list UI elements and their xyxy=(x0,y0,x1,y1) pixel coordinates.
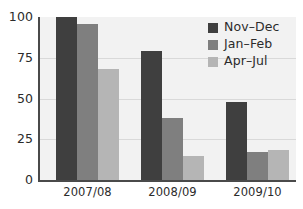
bar-jan-feb-2008-09 xyxy=(162,118,183,180)
bar-chart: 100 75 50 25 0 2007/08 2008/09 2009/10 xyxy=(0,0,303,209)
legend-label-apr-jul: Apr–Jul xyxy=(224,55,268,68)
x-tick-label-2007-08: 2007/08 xyxy=(63,187,111,199)
y-tick-label-0: 0 xyxy=(25,174,33,187)
bar-apr-jul-2007-08 xyxy=(98,69,119,180)
y-tick-label-100: 100 xyxy=(9,11,33,24)
bar-apr-jul-2009-10 xyxy=(268,150,289,180)
y-axis: 100 75 50 25 0 xyxy=(0,0,38,209)
legend-item-nov-dec: Nov–Dec xyxy=(208,20,280,35)
y-tick-label-25: 25 xyxy=(17,133,33,146)
legend-item-apr-jul: Apr–Jul xyxy=(208,54,280,69)
y-tick-label-75: 75 xyxy=(17,52,33,65)
x-axis: 2007/08 2008/09 2009/10 xyxy=(40,185,296,207)
bar-jan-feb-2009-10 xyxy=(247,152,268,180)
x-axis-line xyxy=(38,180,296,182)
bar-apr-jul-2008-09 xyxy=(183,156,204,181)
y-tick-label-50: 50 xyxy=(17,92,33,105)
legend-swatch-apr-jul xyxy=(208,57,218,67)
legend-label-nov-dec: Nov–Dec xyxy=(224,21,280,34)
bar-nov-dec-2008-09 xyxy=(141,51,162,180)
x-tick-label-2009-10: 2009/10 xyxy=(233,187,281,199)
bar-nov-dec-2009-10 xyxy=(226,102,247,180)
legend-swatch-nov-dec xyxy=(208,23,218,33)
bar-nov-dec-2007-08 xyxy=(56,17,77,180)
legend-item-jan-feb: Jan–Feb xyxy=(208,37,280,52)
x-tick-label-2008-09: 2008/09 xyxy=(148,187,196,199)
legend-swatch-jan-feb xyxy=(208,40,218,50)
bar-jan-feb-2007-08 xyxy=(77,24,98,181)
legend: Nov–Dec Jan–Feb Apr–Jul xyxy=(208,20,280,71)
legend-label-jan-feb: Jan–Feb xyxy=(224,38,272,51)
